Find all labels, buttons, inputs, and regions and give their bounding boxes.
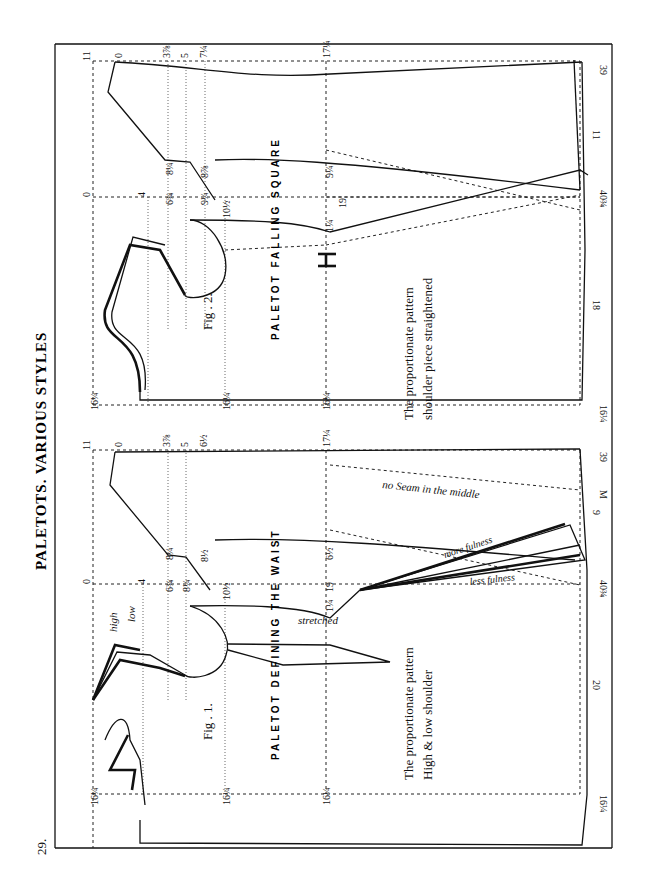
fig2-note-2: shoulder piece straightened (420, 277, 435, 420)
svg-text:11: 11 (81, 51, 92, 61)
page-title: PALETOTS. VARIOUS STYLES (33, 332, 49, 570)
svg-text:6½: 6½ (324, 547, 335, 560)
svg-text:16¼: 16¼ (89, 787, 100, 805)
fig2-caption: Fig . 2. (200, 293, 215, 330)
label-less-fulness: less fulness (469, 571, 515, 587)
svg-text:19: 19 (324, 582, 335, 592)
svg-text:18: 18 (591, 300, 602, 310)
svg-text:10½: 10½ (221, 582, 232, 600)
fig1-caption: Fig . 1. (200, 703, 215, 740)
page-title-group: PALETOTS. VARIOUS STYLES 29. (33, 332, 49, 855)
fig1-note-2: High & low shoulder (420, 669, 435, 780)
svg-text:0: 0 (81, 192, 92, 197)
svg-text:8¼: 8¼ (181, 579, 192, 592)
fig1-heading: PALETOT DEFINING THE WAIST (270, 528, 281, 760)
label-low: low (125, 605, 137, 622)
svg-text:40¾: 40¾ (598, 190, 609, 208)
svg-text:4: 4 (136, 192, 147, 197)
svg-text:19: 19 (337, 198, 348, 208)
svg-text:9¼: 9¼ (199, 192, 210, 205)
svg-text:1¼: 1¼ (324, 219, 335, 232)
page-number: 29. (34, 839, 49, 855)
fig1-labels: PALETOT DEFINING THE WAIST Fig . 1. The … (107, 478, 515, 780)
svg-text:6¾: 6¾ (164, 580, 175, 593)
label-stretched: stretched (298, 614, 338, 626)
figure-2 (93, 60, 588, 405)
fig2-labels: PALETOT FALLING SQUARE Fig . 2. The prop… (200, 137, 435, 420)
svg-text:16¼: 16¼ (321, 392, 332, 410)
svg-text:5: 5 (179, 442, 190, 447)
svg-text:9: 9 (591, 510, 602, 515)
svg-text:3⅞: 3⅞ (161, 45, 172, 58)
svg-text:20: 20 (591, 680, 602, 690)
svg-text:3⅞: 3⅞ (161, 434, 172, 447)
svg-text:16¼: 16¼ (598, 795, 609, 813)
svg-text:17¼: 17¼ (321, 40, 332, 58)
svg-text:5: 5 (179, 53, 190, 58)
svg-text:0: 0 (113, 442, 124, 447)
svg-text:9¼: 9¼ (324, 165, 335, 178)
svg-text:8¼: 8¼ (164, 162, 175, 175)
svg-text:4: 4 (136, 579, 147, 584)
svg-text:1¼: 1¼ (324, 599, 335, 612)
svg-text:16¼: 16¼ (598, 405, 609, 423)
svg-text:6½: 6½ (198, 434, 209, 447)
svg-text:16¼: 16¼ (89, 392, 100, 410)
svg-text:M: M (598, 490, 609, 499)
fig1-note-1: The proportionate pattern (401, 647, 416, 780)
svg-text:6¾: 6¾ (164, 193, 175, 206)
figure-1 (93, 449, 587, 848)
svg-text:16¼: 16¼ (221, 787, 232, 805)
svg-text:39: 39 (598, 65, 609, 75)
svg-text:8¼: 8¼ (164, 547, 175, 560)
svg-text:16¼: 16¼ (221, 392, 232, 410)
pattern-plate: PALETOTS. VARIOUS STYLES 29. PALETOT FAL… (0, 0, 646, 870)
svg-text:11: 11 (591, 130, 602, 140)
measurement-labels: 11 0 3⅞ 5 7¼ 17¼ 39 0 4 8¼ 8⅞ 6¾ 9¼ 10½ … (81, 40, 609, 813)
svg-text:16¼: 16¼ (321, 787, 332, 805)
label-high: high (107, 612, 119, 632)
fig2-heading: PALETOT FALLING SQUARE (270, 137, 281, 340)
svg-text:10½: 10½ (221, 200, 232, 218)
svg-text:7¼: 7¼ (198, 45, 209, 58)
svg-text:0: 0 (113, 53, 124, 58)
svg-text:11: 11 (81, 440, 92, 450)
svg-text:17¼: 17¼ (321, 429, 332, 447)
svg-text:0: 0 (81, 579, 92, 584)
svg-text:8½: 8½ (199, 549, 210, 562)
svg-text:40¾: 40¾ (598, 580, 609, 598)
svg-text:39: 39 (598, 452, 609, 462)
label-no-seam: no Seam in the middle (382, 478, 481, 500)
svg-text:8⅞: 8⅞ (199, 165, 210, 178)
fig2-note-1: The proportionate pattern (401, 287, 416, 420)
